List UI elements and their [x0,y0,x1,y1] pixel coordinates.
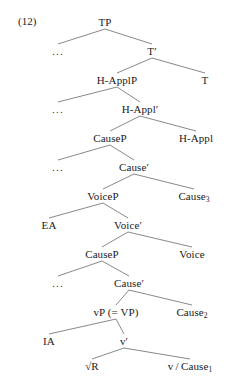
tree-node-voicep: VoiceP [87,191,119,202]
tree-edge [103,203,128,218]
syntax-tree-figure: (12) TP...T′H-ApplPT...H-Appl′CausePH-Ap… [0,0,235,376]
tree-node-label: TP [98,16,111,28]
tree-node-ell1: ... [52,46,64,57]
tree-node-happlbar: H-Appl′ [122,104,159,115]
tree-node-happl: H-Appl [179,133,213,144]
tree-node-causebar2: Cause′ [114,278,144,289]
tree-node-label: T′ [147,45,156,57]
tree-node-label: Voice [179,248,204,260]
tree-node-t: T [202,75,209,86]
tree-node-happlp: H-ApplP [97,75,137,86]
tree-edge [49,203,103,218]
tree-edge [102,261,129,276]
tree-node-causephi: CauseP [93,133,127,144]
tree-node-tp: TP [98,17,111,28]
tree-node-label: Voice′ [114,219,142,231]
tree-node-label: vP (= VP) [93,306,138,318]
tree-node-label: √R [85,360,99,372]
tree-node-label: H-ApplP [97,74,137,86]
tree-node-vp: vP (= VP) [93,307,138,318]
tree-node-ell3: ... [52,162,64,173]
tree-node-label: Cause [178,190,205,202]
tree-node-label: EA [42,219,57,231]
tree-node-voice: Voice [179,249,204,260]
tree-node-label: ... [52,103,64,115]
tree-node-label: T [202,74,209,86]
tree-edge [116,319,124,334]
tree-node-ia: IA [43,336,55,347]
tree-node-causeplo: CauseP [85,249,119,260]
tree-edge [103,174,134,189]
tree-edge [92,348,124,359]
tree-edge [58,145,110,160]
tree-node-label: Cause [176,306,203,318]
tree-edge [49,319,116,334]
tree-node-voicebar: Voice′ [114,220,142,231]
tree-node-vbar: v′ [120,336,128,347]
tree-edge [58,87,117,102]
tree-edge [110,145,134,160]
tree-node-label: H-Appl′ [122,103,159,115]
tree-node-label: ... [52,161,64,173]
tree-branches [0,0,235,376]
tree-node-rootr: √R [85,361,99,372]
tree-edge [116,290,129,305]
tree-edge [124,348,190,359]
tree-node-cause2: Cause2 [176,307,207,318]
tree-node-vcause1: v / Cause1 [168,361,213,372]
tree-node-subscript: 2 [204,311,208,320]
tree-node-label: v / Cause [168,360,209,372]
tree-edge [102,232,128,247]
tree-node-ell4: ... [52,278,64,289]
tree-edge [129,290,192,305]
tree-node-label: Cause′ [114,277,144,289]
tree-edge [140,116,196,131]
tree-node-subscript: 3 [206,195,210,204]
tree-node-label: v′ [120,335,128,347]
tree-node-ell2: ... [52,104,64,115]
tree-edge [134,174,194,189]
tree-node-tbar: T′ [147,46,156,57]
tree-node-label: CauseP [93,132,127,144]
tree-node-label: ... [52,277,64,289]
tree-edge [58,261,102,276]
tree-edge [128,232,192,247]
tree-edge [117,58,152,73]
tree-edge [110,116,140,131]
tree-node-label: Cause′ [119,161,149,173]
tree-node-label: IA [43,335,55,347]
tree-edge [58,29,105,44]
tree-node-label: VoiceP [87,190,119,202]
tree-edge [117,87,140,102]
tree-edge [105,29,152,44]
tree-node-ea: EA [42,220,57,231]
tree-node-label: H-Appl [179,132,213,144]
tree-node-causebar3: Cause′ [119,162,149,173]
tree-node-subscript: 1 [208,365,212,374]
tree-node-label: CauseP [85,248,119,260]
tree-node-label: ... [52,45,64,57]
tree-edge [152,58,205,73]
tree-node-cause3: Cause3 [178,191,209,202]
